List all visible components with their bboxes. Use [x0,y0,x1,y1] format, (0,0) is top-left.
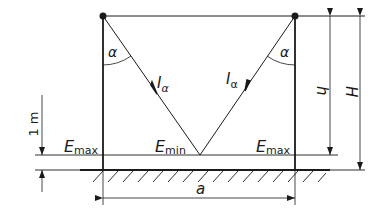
right-emax-label: Emax [256,137,291,157]
left-emax-label: Emax [64,137,99,157]
dimension-H-label: H [342,86,360,97]
left-angle-label: α [108,44,118,60]
emin-label: Emin [155,137,186,157]
lighting-diagram: α α Iα Iα Emax Emin Emax a h H 1 m [0,0,387,216]
right-intensity-label: Iα [226,70,238,91]
right-ray-arrow-icon [245,80,250,91]
left-intensity-label: Iα [157,74,169,95]
ground-hatching [93,171,326,182]
dimension-1m-label: 1 m [26,111,41,136]
dimension-a-label: a [196,180,205,198]
right-angle-label: α [280,44,290,60]
dimension-h-label: h [313,86,331,96]
